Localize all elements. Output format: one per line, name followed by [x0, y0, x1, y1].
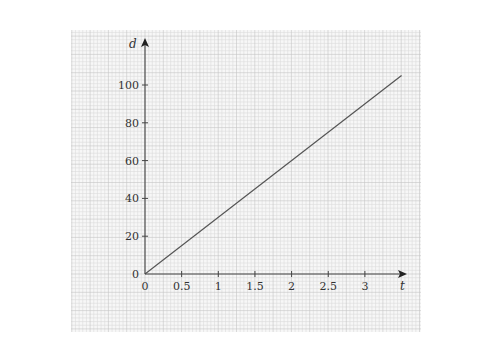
- x-tick-label: 1: [215, 280, 222, 293]
- y-tick-label: 60: [125, 155, 139, 168]
- y-tick-label: 40: [125, 192, 139, 205]
- x-axis-label: t: [400, 279, 405, 293]
- x-tick-label: 0: [142, 280, 149, 293]
- y-tick-label: 20: [125, 230, 139, 243]
- x-tick-label: 0.5: [173, 280, 191, 293]
- x-tick-label: 2: [288, 280, 295, 293]
- chart: 00.511.522.53 020406080100 t d: [0, 0, 496, 361]
- x-tick-label: 1.5: [246, 280, 264, 293]
- x-tick-label: 3: [361, 280, 368, 293]
- y-tick-label: 80: [125, 117, 139, 130]
- x-tick-label: 2.5: [320, 280, 338, 293]
- y-tick-label: 100: [118, 79, 139, 92]
- y-tick-label: 0: [132, 268, 139, 281]
- y-axis-label: d: [129, 37, 137, 51]
